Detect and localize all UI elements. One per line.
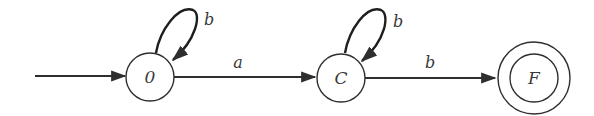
state-0: 0 xyxy=(126,53,174,101)
loop-C-label: b xyxy=(393,12,403,31)
self-loop-C: b xyxy=(345,9,403,61)
state-F-label: F xyxy=(527,68,541,88)
state-0-label: 0 xyxy=(145,67,156,87)
loop-0-label: b xyxy=(204,10,214,29)
automaton-diagram: b 0 a b C b F xyxy=(0,0,594,116)
edge-C-F-label: b xyxy=(425,53,435,72)
state-C-label: C xyxy=(334,68,347,88)
self-loop-0: b xyxy=(156,9,214,60)
state-C: C xyxy=(317,54,365,102)
state-F: F xyxy=(498,42,570,114)
edge-0-to-C: a xyxy=(174,53,315,77)
edge-0-C-label: a xyxy=(233,53,243,72)
edge-C-to-F: b xyxy=(365,53,495,78)
